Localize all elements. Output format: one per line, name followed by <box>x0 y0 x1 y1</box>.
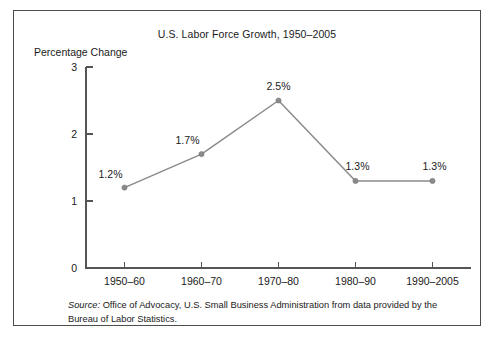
y-axis-tick-label: 3 <box>71 61 77 73</box>
x-axis-tick-labels: 1950–601960–701970–801980–901990–2005 <box>104 275 459 287</box>
data-point-markers <box>122 98 435 190</box>
x-axis-tick-label: 1960–70 <box>181 275 222 287</box>
y-axis-tick-label: 0 <box>71 262 77 274</box>
data-point-value-label: 1.7% <box>176 134 200 146</box>
data-point-marker <box>430 178 435 183</box>
chart-axes <box>86 67 471 268</box>
x-axis-ticks <box>125 262 433 268</box>
data-series-line <box>125 101 433 188</box>
y-axis-tick-label: 1 <box>71 195 77 207</box>
x-axis-tick-label: 1990–2005 <box>406 275 459 287</box>
data-point-marker <box>276 98 281 103</box>
y-axis-tick-labels: 0123 <box>71 61 77 274</box>
axis-lines <box>86 67 471 268</box>
y-axis-tick-label: 2 <box>71 128 77 140</box>
line-chart: 0123 1950–601960–701970–801980–901990–20… <box>14 11 482 327</box>
figure-frame: U.S. Labor Force Growth, 1950–2005 Perce… <box>13 10 481 326</box>
data-point-marker <box>122 185 127 190</box>
data-point-marker <box>199 152 204 157</box>
x-axis-tick-label: 1980–90 <box>335 275 376 287</box>
y-axis-ticks <box>86 67 93 201</box>
source-note: Source: Office of Advocacy, U.S. Small B… <box>68 299 468 326</box>
source-body: Office of Advocacy, U.S. Small Business … <box>68 300 437 324</box>
data-point-marker <box>353 178 358 183</box>
data-point-value-labels: 1.2%1.7%2.5%1.3%1.3% <box>99 80 447 180</box>
x-axis-tick-label: 1970–80 <box>258 275 299 287</box>
data-point-value-label: 1.3% <box>423 160 447 172</box>
data-point-value-label: 1.2% <box>99 168 123 180</box>
x-axis-tick-label: 1950–60 <box>104 275 145 287</box>
data-point-value-label: 1.3% <box>346 160 370 172</box>
data-point-value-label: 2.5% <box>267 80 291 92</box>
source-label: Source: <box>68 300 100 310</box>
